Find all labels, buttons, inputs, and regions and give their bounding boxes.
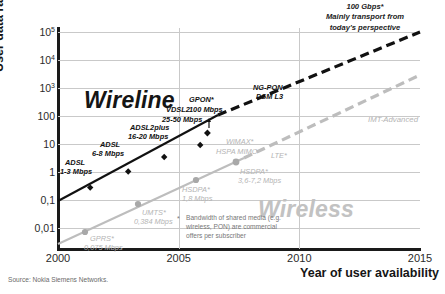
label-vdsl2-name: VDSL2 xyxy=(166,106,190,115)
marker-adsl-6-8 xyxy=(125,168,131,174)
label-wimax-name: WiMAX* xyxy=(226,138,253,147)
label-imt-advanced: IMT-Advanced xyxy=(368,116,418,125)
marker-adsl2plus xyxy=(161,154,167,160)
y-axis-title: User data rate [Mbps] xyxy=(0,0,6,72)
y-tick-0-1: 0,1 xyxy=(40,194,55,206)
label-hsdpa-1-8-value: 1,8 Mbps xyxy=(182,195,212,204)
top-note-line-3: today's perspective xyxy=(300,23,430,33)
label-wimax-value: HSPA MIMO xyxy=(216,148,257,157)
marker-hsdpa-3-6 xyxy=(233,159,240,166)
chart-figure: 105 104 103 100 10 1 0,1 0,01 User data … xyxy=(0,0,445,294)
footnote-marker: * xyxy=(177,214,180,223)
label-lte: LTE* xyxy=(271,152,287,161)
footnote: * Bandwidth of shared media (e.g. wirele… xyxy=(186,214,281,241)
x-tick-2015: 2015 xyxy=(408,252,432,264)
marker-vdsl2 xyxy=(197,142,203,148)
top-right-note: 100 Gbps* Mainly transport from today's … xyxy=(300,2,430,33)
y-tick-100: 100 xyxy=(37,110,55,122)
label-gpon-name: GPON* xyxy=(189,96,214,105)
marker-umts xyxy=(135,201,141,207)
top-note-line-2: Mainly transport from xyxy=(300,12,430,22)
y-tick-0-01: 0,01 xyxy=(35,222,55,234)
y-tick-10: 10 xyxy=(43,138,55,150)
label-vdsl2-value: 25-50 Mbps xyxy=(162,116,202,125)
marker-hsdpa-1-8 xyxy=(193,177,199,183)
band-label-wireline: Wireline xyxy=(84,87,175,114)
y-tick-100000: 105 xyxy=(39,26,55,39)
footnote-line-2: wireless, PON) are commercial xyxy=(186,223,281,232)
label-ngpon-value: DSM L3 xyxy=(256,93,283,102)
wireline-dashed-path xyxy=(218,32,420,115)
top-note-line-1: 100 Gbps* xyxy=(300,2,430,12)
plot-area: Wireline Wireless ADSL 1-3 Mbps ADSL 6-8… xyxy=(58,28,420,249)
y-tick-1000: 103 xyxy=(39,82,55,95)
marker-gpon xyxy=(204,130,211,137)
label-adsl2plus-value: 16-20 Mbps xyxy=(128,133,168,142)
x-tick-2010: 2010 xyxy=(287,252,311,264)
label-adsl-6-8-value: 6-8 Mbps xyxy=(92,150,124,159)
source-note: Source: Nokia Siemens Networks. xyxy=(8,276,108,283)
y-tick-1: 1 xyxy=(49,166,55,178)
footnote-line-1: Bandwidth of shared media (e.g. xyxy=(186,214,281,223)
x-tick-2005: 2005 xyxy=(166,252,190,264)
marker-gprs xyxy=(82,229,88,235)
label-gpon-value: 100 Mbps xyxy=(189,106,223,115)
x-axis-title: Year of user availability xyxy=(300,266,439,280)
x-tick-2000: 2000 xyxy=(46,252,70,264)
label-gprs-value: 0,075 Mbps xyxy=(84,244,123,253)
y-axis-tick-labels: 105 104 103 100 10 1 0,1 0,01 xyxy=(0,0,55,294)
label-umts-value: 0,384 Mbps xyxy=(134,218,173,227)
label-hsdpa-3-6-value: 3,6-7,2 Mbps xyxy=(238,177,281,186)
y-tick-10000: 104 xyxy=(39,54,55,67)
label-adsl-1-3-value: 1-3 Mbps xyxy=(60,168,92,177)
footnote-line-3: offers per subscriber xyxy=(186,232,281,241)
